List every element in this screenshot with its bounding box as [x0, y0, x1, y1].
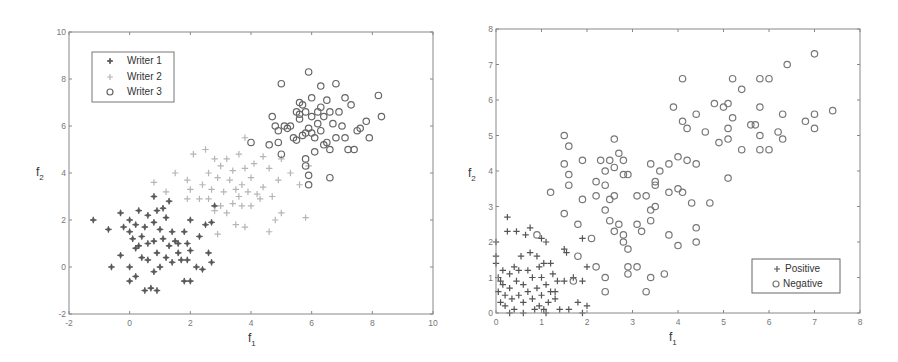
- circle-marker: [830, 107, 836, 113]
- y-tick-label: 4: [488, 166, 493, 176]
- circle-marker: [707, 200, 713, 206]
- circle-marker: [611, 164, 617, 170]
- circle-marker: [657, 168, 663, 174]
- plus-marker: [239, 182, 245, 188]
- plus-marker: [278, 210, 284, 216]
- circle-marker: [308, 95, 314, 101]
- plus-marker: [554, 278, 560, 284]
- star-marker: [133, 222, 139, 228]
- star-marker: [105, 226, 111, 232]
- circle-marker: [688, 200, 694, 206]
- left-y-axis-label: f2: [36, 165, 44, 182]
- circle-marker: [315, 120, 321, 126]
- legend-writer-3: Writer 3: [127, 86, 162, 97]
- plus-marker: [536, 264, 542, 270]
- circle-marker: [779, 111, 785, 117]
- circle-marker: [648, 218, 654, 224]
- circle-marker: [308, 113, 314, 119]
- y-tick-label: 0: [488, 308, 493, 318]
- plus-marker: [545, 299, 551, 305]
- star-marker: [163, 214, 169, 220]
- y-tick-label: 2: [61, 215, 66, 225]
- circle-marker: [342, 95, 348, 101]
- star-marker: [181, 229, 187, 235]
- y-tick-label: -2: [58, 309, 66, 319]
- star-marker: [154, 250, 160, 256]
- plus-marker: [516, 267, 522, 273]
- circle-marker: [339, 123, 345, 129]
- plus-marker: [187, 186, 193, 192]
- circle-marker: [661, 271, 667, 277]
- circle-marker: [579, 157, 585, 163]
- circle-marker: [378, 113, 384, 119]
- circle-marker: [375, 92, 381, 98]
- circle-marker: [757, 132, 763, 138]
- plus-marker: [251, 160, 257, 166]
- star-marker: [151, 219, 157, 225]
- legend-positive: Positive: [785, 263, 820, 274]
- circle-marker: [366, 135, 372, 141]
- y-tick-label: 0: [61, 262, 66, 272]
- plus-marker: [205, 170, 211, 176]
- plus-marker: [534, 253, 540, 259]
- plus-marker: [196, 196, 202, 202]
- circle-marker: [634, 221, 640, 227]
- plus-marker: [513, 278, 519, 284]
- circle-marker: [634, 193, 640, 199]
- x-tick-label: 6: [767, 317, 772, 327]
- star-marker: [126, 229, 132, 235]
- x-tick-label: 4: [249, 318, 254, 328]
- circle-marker: [321, 113, 327, 119]
- star-marker: [126, 264, 132, 270]
- left-x-axis-label: f1: [248, 331, 256, 348]
- right-scatter-plot: 012345678012345678 Positive Negative f2 …: [468, 24, 863, 347]
- x-tick-label: 10: [428, 318, 438, 328]
- circle-marker: [702, 129, 708, 135]
- circle-marker: [305, 182, 311, 188]
- x-tick-label: 2: [585, 317, 590, 327]
- plus-marker: [534, 285, 540, 291]
- circle-marker: [725, 125, 731, 131]
- circle-marker: [607, 218, 613, 224]
- x-tick-label: 0: [494, 317, 499, 327]
- right-x-axis-label: f1: [669, 330, 677, 347]
- circle-marker: [602, 274, 608, 280]
- plus-marker: [275, 177, 281, 183]
- circle-marker: [363, 118, 369, 124]
- star-marker: [126, 217, 132, 223]
- left-scatter-plot: -20246810-20246810 Writer 1 Writer 2 Wri…: [36, 27, 438, 348]
- circle-marker: [278, 81, 284, 87]
- star-marker: [166, 198, 172, 204]
- plus-marker: [211, 207, 217, 213]
- circle-marker: [648, 274, 654, 280]
- circle-marker: [625, 271, 631, 277]
- plus-marker: [151, 179, 157, 185]
- circle-marker: [757, 76, 763, 82]
- circle-marker: [275, 128, 281, 134]
- circle-marker: [318, 104, 324, 110]
- circle-marker: [351, 146, 357, 152]
- circle-marker: [693, 161, 699, 167]
- plus-marker: [511, 264, 517, 270]
- plus-marker: [260, 184, 266, 190]
- plus-marker: [199, 182, 205, 188]
- star-marker: [196, 233, 202, 239]
- plus-marker: [190, 151, 196, 157]
- star-marker: [184, 240, 190, 246]
- circle-marker: [684, 125, 690, 131]
- plus-marker: [242, 135, 248, 141]
- plus-marker: [550, 271, 556, 277]
- plus-marker: [233, 222, 239, 228]
- star-marker: [157, 264, 163, 270]
- circle-marker: [693, 225, 699, 231]
- plus-marker: [217, 203, 223, 209]
- circle-marker: [616, 150, 622, 156]
- plus-marker: [513, 228, 519, 234]
- plus-marker: [248, 175, 254, 181]
- plus-marker: [579, 235, 585, 241]
- circle-marker: [566, 171, 572, 177]
- star-marker: [136, 207, 142, 213]
- circle-marker: [248, 139, 254, 145]
- plus-marker: [236, 151, 242, 157]
- plus-marker: [584, 264, 590, 270]
